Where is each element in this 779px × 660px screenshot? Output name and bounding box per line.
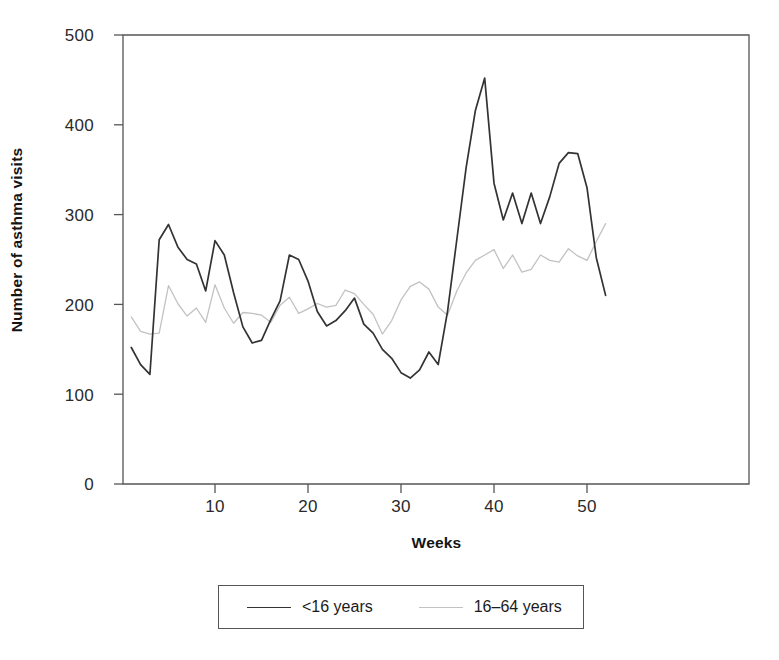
legend: <16 years 16–64 years (218, 585, 584, 629)
plot-area (0, 0, 779, 660)
legend-line-swatch-dark-icon (247, 607, 291, 608)
legend-entry-under-16[interactable]: <16 years (247, 598, 373, 616)
legend-label-under-16: <16 years (302, 598, 373, 616)
axes-frame (123, 35, 749, 484)
legend-line-swatch-light-icon (419, 607, 463, 608)
legend-entry-16-64[interactable]: 16–64 years (419, 598, 562, 616)
series-line-16-64-years (131, 224, 605, 334)
y-tick-marks (114, 35, 123, 484)
x-tick-marks (215, 484, 587, 493)
series-line-under-16-years (131, 78, 605, 378)
asthma-visits-figure: Number of asthma visits 500 400 300 200 … (0, 0, 779, 660)
legend-label-16-64: 16–64 years (474, 598, 562, 616)
